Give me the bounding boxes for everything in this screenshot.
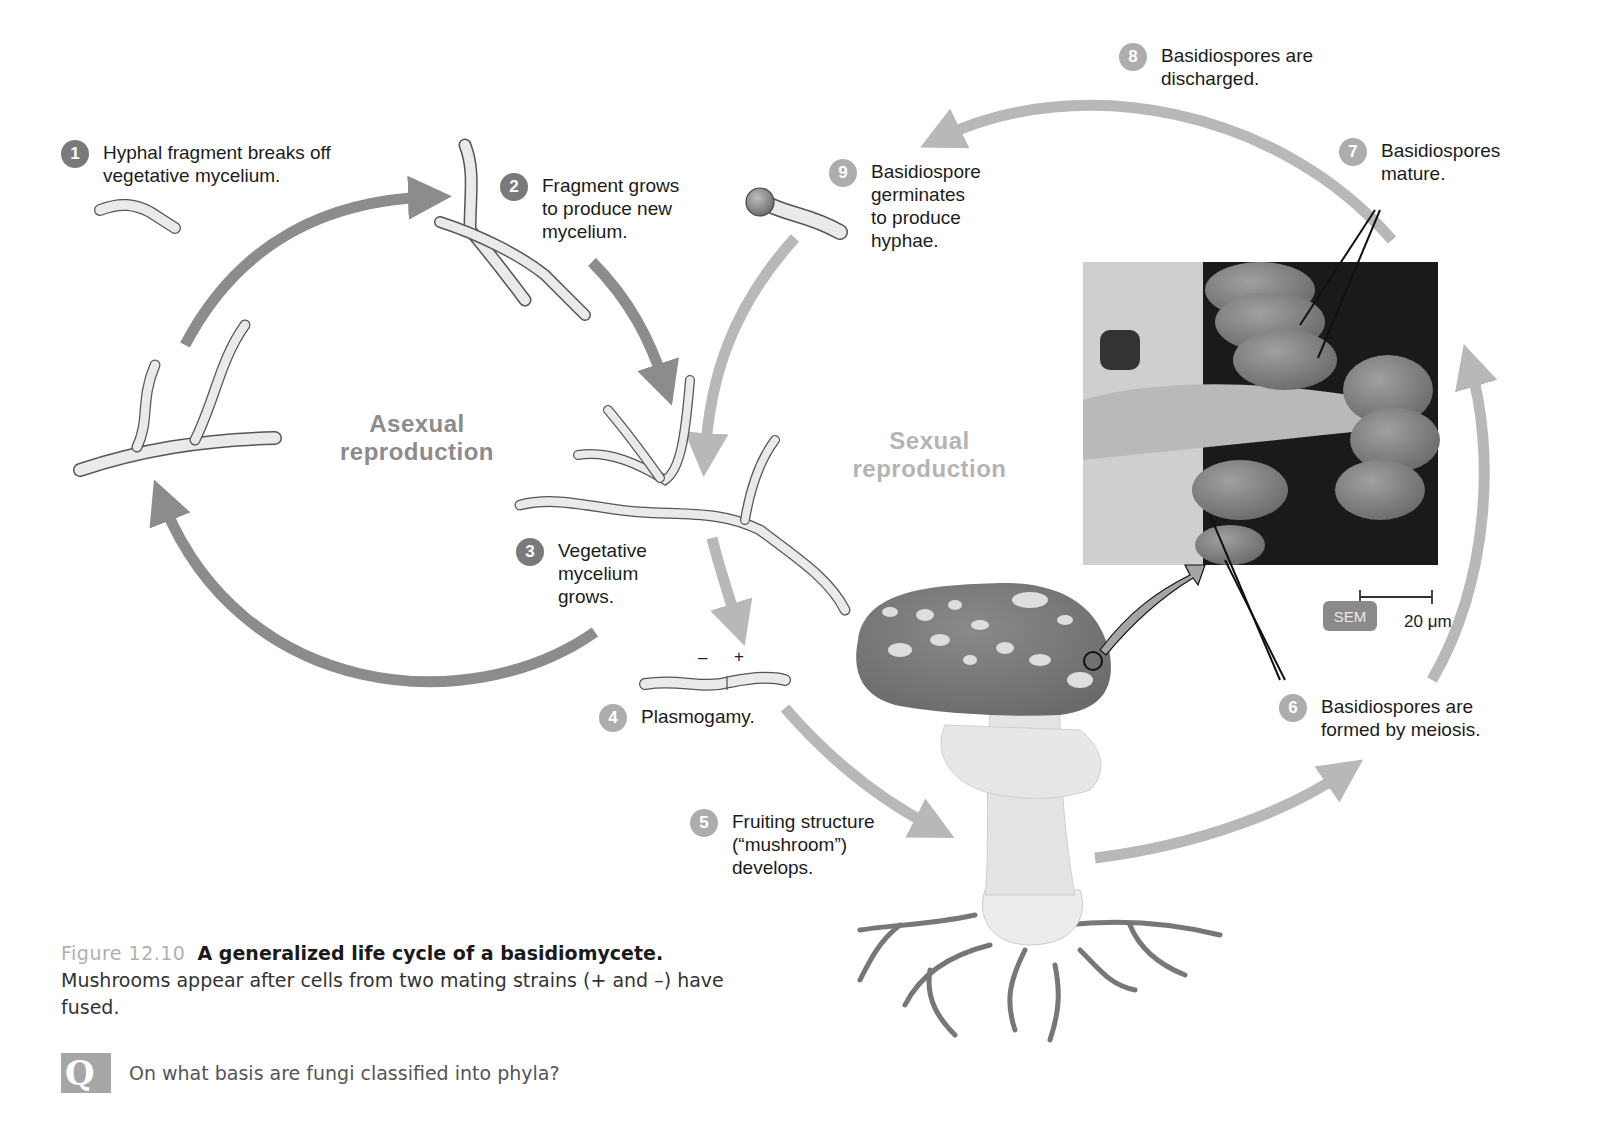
scale-bar-label: 20 μm	[1404, 612, 1452, 632]
step-7: 7 Basidiospores mature.	[1339, 139, 1500, 185]
step-number-badge: 8	[1119, 43, 1147, 71]
step-4: 4 Plasmogamy.	[599, 705, 755, 732]
step-9: 9 Basidiospore germinates to produce hyp…	[829, 160, 981, 252]
review-question: Q On what basis are fungi classified int…	[61, 1053, 559, 1093]
step-description: Hyphal fragment breaks off vegetative my…	[103, 141, 331, 187]
step-description: Basidiospore germinates to produce hypha…	[871, 160, 981, 252]
step-number-badge: 9	[829, 159, 857, 187]
step-description: Basidiospores mature.	[1381, 139, 1500, 185]
hyphal-fragment	[100, 205, 175, 228]
step-description: Fruiting structure (“mushroom”) develops…	[732, 810, 875, 879]
arrow-step1-to-2	[185, 197, 430, 345]
step-number-badge: 6	[1279, 694, 1307, 722]
step-number-badge: 4	[599, 704, 627, 732]
figure-number: Figure 12.10	[61, 942, 185, 964]
step-description: Vegetative mycelium grows.	[558, 539, 647, 608]
step-description: Fragment grows to produce new mycelium.	[542, 174, 679, 243]
asexual-reproduction-label: Asexual reproduction	[322, 410, 512, 466]
germinating-basidiospore	[746, 188, 840, 232]
branched-mycelium-left	[80, 325, 275, 470]
figure-caption: Figure 12.10 A generalized life cycle of…	[61, 940, 761, 1021]
sem-badge: SEM	[1323, 601, 1377, 631]
sexual-reproduction-label: Sexual reproduction	[832, 427, 1027, 483]
step-description: Basidiospores are discharged.	[1161, 44, 1313, 90]
step-8: 8 Basidiospores are discharged.	[1119, 44, 1313, 90]
step-6: 6 Basidiospores are formed by meiosis.	[1279, 695, 1480, 741]
step-number-badge: 7	[1339, 138, 1367, 166]
plasmogamy-hyphae	[645, 676, 785, 690]
step-number-badge: 2	[500, 173, 528, 201]
plus-mating-sign: +	[734, 647, 744, 667]
arrow-step9-to-3	[705, 238, 795, 455]
arrow-step8-to-9	[940, 105, 1392, 240]
step-number-badge: 3	[516, 538, 544, 566]
step-3: 3 Vegetative mycelium grows.	[516, 539, 647, 608]
zoom-callout-arrow	[1100, 565, 1205, 655]
arrow-step2-to-3	[592, 262, 665, 385]
step-description: Plasmogamy.	[641, 705, 755, 728]
arrow-step5-to-6	[1095, 772, 1345, 858]
question-icon: Q	[61, 1053, 111, 1093]
figure-title: A generalized life cycle of a basidiomyc…	[198, 942, 664, 964]
minus-mating-sign: –	[698, 648, 707, 668]
arrow-step3-to-4	[712, 538, 738, 625]
step-description: Basidiospores are formed by meiosis.	[1321, 695, 1480, 741]
step-1: 1 Hyphal fragment breaks off vegetative …	[61, 141, 331, 187]
figure-caption-body: Mushrooms appear after cells from two ma…	[61, 967, 761, 1021]
basidiomycete-life-cycle-diagram: 1 Hyphal fragment breaks off vegetative …	[0, 0, 1605, 1124]
step-number-badge: 5	[690, 809, 718, 837]
step-number-badge: 1	[61, 140, 89, 168]
step-5: 5 Fruiting structure (“mushroom”) develo…	[690, 810, 875, 879]
arrow-step6-to-7	[1432, 365, 1484, 680]
question-text: On what basis are fungi classified into …	[129, 1062, 559, 1084]
mushroom-fruiting-body	[856, 565, 1220, 1040]
step-2: 2 Fragment grows to produce new mycelium…	[500, 174, 679, 243]
